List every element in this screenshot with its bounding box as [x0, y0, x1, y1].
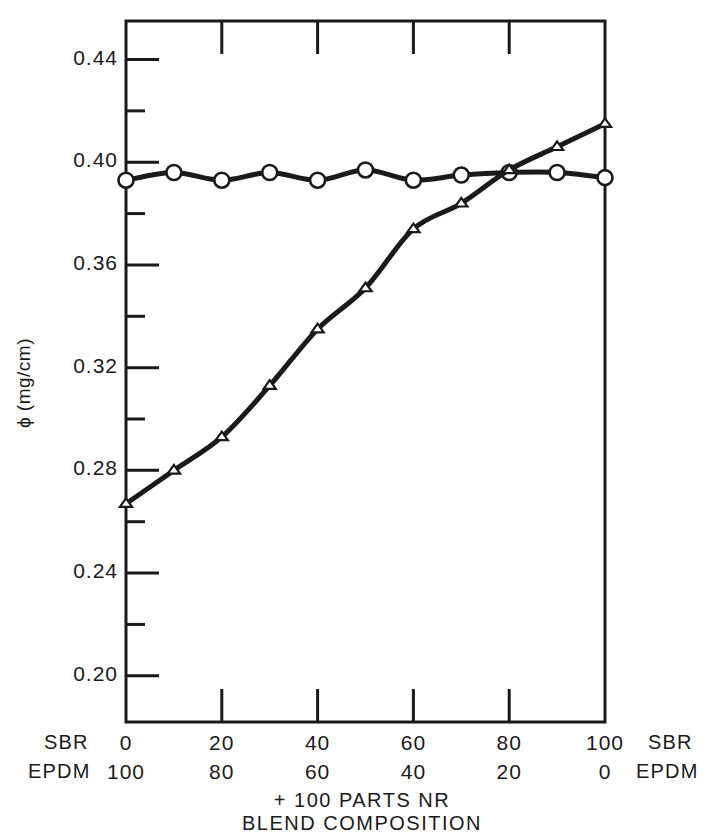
- x-axis-left-secondary-name: EPDM: [28, 760, 91, 783]
- x-tick-label-primary: 60: [378, 731, 448, 755]
- plot-frame: [126, 21, 605, 722]
- x-tick-label-primary: 40: [283, 731, 353, 755]
- data-point-circle: [358, 162, 373, 177]
- series-circles: [119, 162, 613, 187]
- x-axis-right-primary-name: SBR: [648, 731, 693, 754]
- y-tick-label: 0.44: [32, 46, 118, 70]
- data-point-circle: [310, 173, 325, 188]
- y-tick-label: 0.28: [32, 456, 118, 480]
- y-tick-label: 0.20: [32, 662, 118, 686]
- data-point-circle: [550, 165, 565, 180]
- x-tick-label-secondary: 100: [91, 760, 161, 784]
- data-point-circle: [166, 165, 181, 180]
- y-tick-label: 0.36: [32, 251, 118, 275]
- x-tick-label-secondary: 0: [570, 760, 640, 784]
- data-point-circle: [262, 165, 277, 180]
- x-tick-label-secondary: 80: [187, 760, 257, 784]
- x-tick-label-primary: 100: [570, 731, 640, 755]
- x-axis-caption-line-1: + 100 PARTS NR: [0, 789, 724, 812]
- y-tick-label: 0.24: [32, 559, 118, 583]
- x-tick-label-secondary: 20: [474, 760, 544, 784]
- axis-frame: [126, 21, 605, 722]
- data-point-circle: [598, 170, 613, 185]
- axis-ticks: [126, 21, 509, 722]
- x-axis-left-primary-name: SBR: [44, 731, 89, 754]
- x-tick-label-secondary: 60: [283, 760, 353, 784]
- y-tick-label: 0.40: [32, 148, 118, 172]
- x-axis-caption-line-2: BLEND COMPOSITION: [0, 812, 724, 835]
- y-tick-label: 0.32: [32, 354, 118, 378]
- x-axis-right-secondary-name: EPDM: [636, 760, 699, 783]
- y-axis-title: ϕ (mg/cm): [13, 323, 35, 443]
- data-point-circle: [454, 168, 469, 183]
- x-tick-label-primary: 80: [474, 731, 544, 755]
- data-point-circle: [214, 173, 229, 188]
- data-point-triangle: [599, 118, 611, 127]
- data-point-circle: [119, 173, 134, 188]
- chart-plot-area: [0, 0, 724, 836]
- x-tick-label-secondary: 40: [378, 760, 448, 784]
- x-tick-label-primary: 0: [91, 731, 161, 755]
- x-tick-label-primary: 20: [187, 731, 257, 755]
- data-point-circle: [406, 173, 421, 188]
- figure-container: ϕ (mg/cm) 0.440.400.360.320.280.240.20 0…: [0, 0, 724, 836]
- series-line-triangles: [126, 124, 605, 504]
- data-series-layer: [119, 118, 613, 507]
